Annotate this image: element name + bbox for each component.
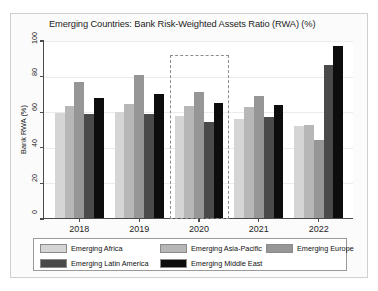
- legend-label: Emerging Europe: [297, 244, 354, 253]
- x-axis-tick-label: 2021: [234, 224, 283, 234]
- y-axis-tick: [40, 40, 44, 41]
- bar: [154, 94, 164, 218]
- x-axis-tick-label: 2019: [115, 224, 164, 234]
- chart-legend: Emerging AfricaEmerging Asia-PacificEmer…: [33, 238, 347, 271]
- bar: [74, 82, 84, 218]
- bar: [314, 140, 324, 218]
- legend-swatch: [160, 244, 187, 253]
- bar: [184, 106, 194, 218]
- legend-label: Emerging Asia-Pacific: [191, 244, 262, 253]
- bar: [84, 114, 94, 218]
- bar: [194, 92, 204, 218]
- legend-label: Emerging Middle East: [191, 259, 262, 268]
- x-axis-tick: [79, 218, 80, 222]
- bar: [214, 103, 224, 218]
- bar-group-2021: 2021: [234, 41, 283, 218]
- bar-group-2022: 2022: [294, 41, 343, 218]
- legend-item[interactable]: Emerging Asia-Pacific: [160, 244, 262, 253]
- bar: [264, 117, 274, 218]
- bar: [144, 114, 154, 218]
- bar: [244, 107, 254, 218]
- figure-panel: Emerging Countries: Bank Risk-Weighted A…: [10, 13, 368, 278]
- y-axis-tick: [40, 76, 44, 77]
- y-axis-tick-label: 20: [31, 174, 38, 182]
- legend-item[interactable]: Emerging Europe: [266, 244, 354, 253]
- y-axis-tick-label: 60: [31, 103, 38, 111]
- legend-row: Emerging AfricaEmerging Asia-PacificEmer…: [38, 242, 342, 255]
- legend-row: Emerging Latin AmericaEmerging Middle Ea…: [38, 255, 342, 268]
- bar: [324, 65, 334, 218]
- bar: [94, 98, 104, 218]
- legend-swatch: [40, 244, 67, 253]
- chart-title: Emerging Countries: Bank Risk-Weighted A…: [49, 19, 361, 29]
- bar: [204, 122, 214, 218]
- bar: [254, 96, 264, 218]
- y-axis-title: Bank RWA (%): [19, 41, 28, 219]
- bar: [134, 75, 144, 218]
- bar: [65, 106, 75, 218]
- legend-item[interactable]: Emerging Latin America: [40, 259, 148, 268]
- bar: [274, 105, 284, 218]
- y-axis-tick: [40, 183, 44, 184]
- x-axis-tick: [198, 218, 199, 222]
- legend-item[interactable]: Emerging Africa: [40, 244, 123, 253]
- bar: [333, 46, 343, 218]
- x-axis-tick-label: 2020: [175, 224, 224, 234]
- bar: [115, 112, 125, 218]
- y-axis-tick-label: 40: [31, 139, 38, 147]
- legend-swatch: [160, 259, 187, 268]
- legend-item[interactable]: Emerging Middle East: [160, 259, 262, 268]
- bar: [124, 104, 134, 218]
- bar: [175, 116, 185, 218]
- bar-group-2019: 2019: [115, 41, 164, 218]
- x-axis-tick: [139, 218, 140, 222]
- y-axis-tick: [40, 112, 44, 113]
- legend-swatch: [266, 244, 293, 253]
- bar: [304, 125, 314, 218]
- plot-area: 020406080100 20182019202020212022: [43, 41, 353, 219]
- x-axis-tick-label: 2018: [55, 224, 104, 234]
- y-axis-tick: [40, 218, 44, 219]
- bar: [294, 126, 304, 218]
- legend-label: Emerging Latin America: [71, 259, 148, 268]
- x-axis-tick-label: 2022: [294, 224, 343, 234]
- bar-group-2020: 2020: [175, 41, 224, 218]
- y-axis-tick-label: 100: [31, 32, 38, 44]
- y-axis-tick: [40, 147, 44, 148]
- bar-group-2018: 2018: [55, 41, 104, 218]
- y-axis-tick-label: 0: [31, 210, 38, 214]
- x-axis-tick: [258, 218, 259, 222]
- x-axis-tick: [318, 218, 319, 222]
- legend-swatch: [40, 259, 67, 268]
- legend-label: Emerging Africa: [71, 244, 123, 253]
- bar: [234, 119, 244, 218]
- bar: [55, 113, 65, 218]
- y-axis-tick-label: 80: [31, 68, 38, 76]
